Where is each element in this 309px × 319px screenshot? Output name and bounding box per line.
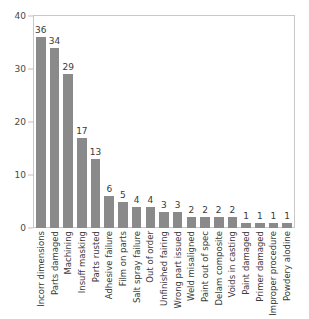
bar: 5 — [118, 16, 128, 228]
bar: 34 — [50, 16, 60, 228]
x-tick-label: Powdery alodine — [280, 231, 294, 319]
bar-value-label: 1 — [243, 212, 249, 221]
x-tick-label: Primer damaged — [253, 231, 267, 319]
y-tick-mark — [28, 228, 33, 229]
x-tick-label: Insuff masking — [75, 231, 89, 319]
bar-rect — [214, 217, 224, 228]
x-tick-label-text: Film on parts — [119, 231, 128, 286]
bar-value-label: 5 — [120, 191, 126, 200]
y-tick-mark — [28, 16, 33, 17]
y-tick-label: 0 — [20, 224, 26, 233]
bar-rect — [282, 223, 292, 228]
bar-rect — [255, 223, 265, 228]
x-tick-label: Out of order — [143, 231, 157, 319]
bar: 2 — [187, 16, 197, 228]
bar-rect — [228, 217, 238, 228]
bar-value-label: 4 — [147, 196, 153, 205]
x-tick-label-text: Insuff masking — [78, 231, 87, 293]
bar-value-label: 2 — [230, 206, 236, 215]
x-tick-label: Unfinished fairing — [157, 231, 171, 319]
x-tick-label-text: Parts damaged — [50, 231, 59, 295]
x-tick-label-text: Salt spray failure — [132, 231, 141, 303]
bar: 17 — [77, 16, 87, 228]
bar-rect — [269, 223, 279, 228]
bar-value-label: 4 — [134, 196, 140, 205]
bar-value-label: 1 — [271, 212, 277, 221]
x-tick-label-text: Unfinished fairing — [160, 231, 169, 306]
x-tick-label: Adhesive failure — [102, 231, 116, 319]
bar-value-label: 29 — [62, 63, 73, 72]
bar: 13 — [91, 16, 101, 228]
bar-value-label: 17 — [76, 127, 87, 136]
x-tick-label: Delam composite — [212, 231, 226, 319]
bars-layer: 363429171365443322221111 — [34, 16, 294, 228]
bar-rect — [241, 223, 251, 228]
x-tick-label-text: Weld misaligned — [187, 231, 196, 301]
x-tick-label: Machining — [61, 231, 75, 319]
bar-rect — [200, 217, 210, 228]
x-tick-label: Wrong part issued — [171, 231, 185, 319]
bar: 4 — [146, 16, 156, 228]
bar-value-label: 36 — [35, 26, 46, 35]
x-tick-label-text: Improper procedure — [269, 231, 278, 316]
x-tick-label: Parts damaged — [48, 231, 62, 319]
x-tick-label-text: Voids in casting — [228, 231, 237, 297]
bar: 2 — [200, 16, 210, 228]
bar: 1 — [269, 16, 279, 228]
x-tick-label-text: Adhesive failure — [105, 231, 114, 299]
x-tick-label-text: Parts rusted — [91, 231, 100, 282]
y-tick-mark — [28, 69, 33, 70]
bar: 3 — [159, 16, 169, 228]
bar-rect — [63, 74, 73, 228]
y-tick-mark — [28, 122, 33, 123]
x-tick-label-text: Paint damaged — [242, 231, 251, 295]
x-tick-label: Weld misaligned — [185, 231, 199, 319]
bar-rect — [50, 48, 60, 228]
bar-rect — [159, 212, 169, 228]
bar-value-label: 34 — [49, 37, 60, 46]
bar: 29 — [63, 16, 73, 228]
bar: 6 — [104, 16, 114, 228]
bar-value-label: 6 — [106, 185, 112, 194]
bar: 1 — [255, 16, 265, 228]
bar: 3 — [173, 16, 183, 228]
y-axis: 010203040 — [0, 0, 33, 319]
x-tick-label: Improper procedure — [267, 231, 281, 319]
bar-rect — [187, 217, 197, 228]
x-tick-label-text: Primer damaged — [256, 231, 265, 302]
bar-value-label: 1 — [284, 212, 290, 221]
x-tick-label-text: Paint out of spec — [201, 231, 210, 302]
bar-value-label: 2 — [216, 206, 222, 215]
x-tick-label-text: Wrong part issued — [173, 231, 182, 308]
bar: 1 — [241, 16, 251, 228]
bar: 1 — [282, 16, 292, 228]
bar-rect — [132, 207, 142, 228]
bar-rect — [77, 138, 87, 228]
y-tick-mark — [28, 175, 33, 176]
bar-rect — [146, 207, 156, 228]
bar: 2 — [214, 16, 224, 228]
x-tick-label: Film on parts — [116, 231, 130, 319]
bar-rect — [104, 196, 114, 228]
bar-value-label: 2 — [202, 206, 208, 215]
bar-rect — [118, 202, 128, 229]
y-tick-label: 40 — [15, 12, 26, 21]
x-tick-label-text: Incorr dimensions — [37, 231, 46, 307]
x-tick-label: Incorr dimensions — [34, 231, 48, 319]
bar-value-label: 2 — [188, 206, 194, 215]
bar-value-label: 13 — [90, 148, 101, 157]
x-tick-label-text: Powdery alodine — [283, 231, 292, 301]
bar-rect — [91, 159, 101, 228]
x-tick-label: Parts rusted — [89, 231, 103, 319]
bar-chart: 010203040 363429171365443322221111 Incor… — [0, 0, 309, 319]
bar-value-label: 3 — [175, 201, 181, 210]
bar: 2 — [228, 16, 238, 228]
bar: 4 — [132, 16, 142, 228]
bar-value-label: 1 — [257, 212, 263, 221]
bar-value-label: 3 — [161, 201, 167, 210]
x-axis-labels: Incorr dimensionsParts damagedMachiningI… — [34, 231, 294, 319]
x-tick-label: Voids in casting — [226, 231, 240, 319]
y-tick-label: 30 — [15, 65, 26, 74]
bar: 36 — [36, 16, 46, 228]
x-tick-label-text: Machining — [64, 231, 73, 275]
